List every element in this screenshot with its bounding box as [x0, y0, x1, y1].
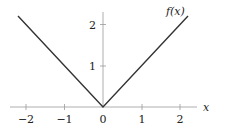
- x-tick-label: −2: [18, 113, 34, 126]
- plot: −2 −1 0 1 2 1 2 x f(x): [0, 0, 232, 132]
- x-tick-label: 2: [177, 113, 184, 126]
- x-tick-label: 0: [100, 113, 107, 126]
- x-axis-label: x: [203, 101, 210, 114]
- function-label: f(x): [165, 5, 185, 18]
- y-tick-label: 2: [89, 19, 96, 32]
- x-tick-label: −1: [56, 113, 72, 126]
- x-tick-label: 1: [139, 113, 146, 126]
- y-tick-label: 1: [89, 60, 96, 73]
